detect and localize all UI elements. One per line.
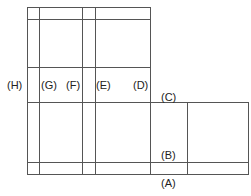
label-d: (D) bbox=[133, 79, 148, 91]
label-c: (C) bbox=[161, 91, 176, 103]
label-b: (B) bbox=[161, 149, 176, 161]
label-e: (E) bbox=[96, 79, 111, 91]
label-a: (A) bbox=[161, 177, 176, 189]
label-f: (F) bbox=[66, 79, 80, 91]
box-net-diagram bbox=[0, 0, 251, 196]
label-h: (H) bbox=[7, 79, 22, 91]
label-g: (G) bbox=[41, 79, 57, 91]
